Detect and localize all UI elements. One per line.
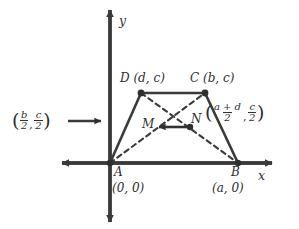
midpoint-label-N: N	[191, 113, 202, 125]
paren-close-right: )	[257, 103, 264, 122]
geometry-figure: D (d, c) C (b, c) M N A (0, 0) B (a, 0) …	[0, 0, 299, 229]
paren-close-left: )	[43, 111, 50, 130]
y-axis-label: y	[119, 13, 126, 28]
vertex-label-B: B	[231, 166, 240, 178]
vertex-dot-D	[138, 90, 145, 97]
fraction-a-plus-d-over-2: a + d 2	[213, 102, 242, 123]
vertex-coord-B: (a, 0)	[212, 182, 244, 194]
comma-right: ,	[243, 111, 247, 123]
x-axis-label: x	[258, 168, 265, 183]
vertex-label-C: C (b, c)	[190, 72, 234, 84]
midpoint-label-M: M	[142, 118, 154, 130]
midsegment-MN	[159, 124, 193, 130]
paren-open-left: (	[12, 111, 19, 130]
comma-left: ,	[29, 119, 33, 131]
vertex-dot-A	[107, 160, 113, 166]
vertex-label-A: A	[114, 166, 123, 178]
vertex-label-D: D (d, c)	[120, 72, 165, 84]
annotation-midpoint-N-coords: ( a + d 2 , c 2 )	[205, 102, 264, 123]
annotation-midpoint-M-coords: ( b 2 , c 2 )	[12, 110, 51, 131]
paren-open-right: (	[205, 103, 212, 122]
fraction-c-over-2-right: c 2	[248, 102, 256, 123]
vertex-dot-C	[202, 90, 209, 97]
fraction-c-over-2-left: c 2	[34, 110, 42, 131]
vertex-coord-A: (0, 0)	[112, 182, 144, 194]
fraction-b-over-2: b 2	[20, 110, 28, 131]
